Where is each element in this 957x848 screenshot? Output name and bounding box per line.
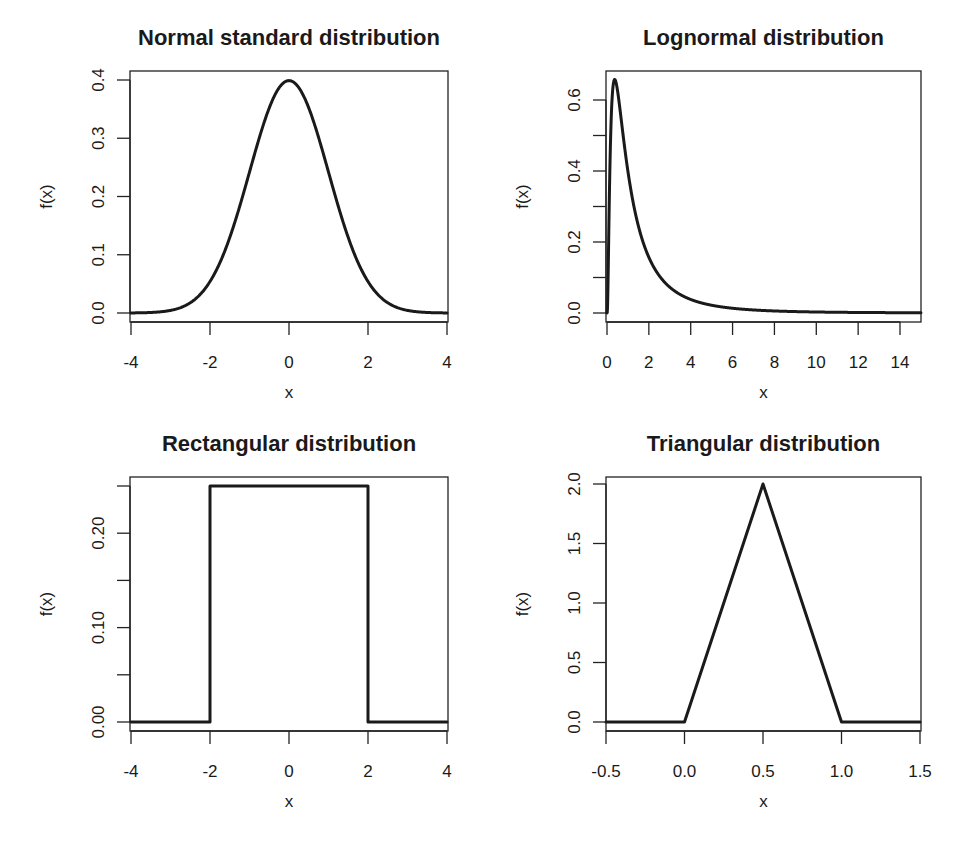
- y-tick-label: 0.0: [565, 710, 584, 734]
- y-tick-label: 0.4: [89, 68, 108, 92]
- y-axis: 0.00.10.20.30.4: [89, 68, 130, 325]
- x-axis: -4-2024: [123, 322, 451, 372]
- panel-title: Lognormal distribution: [643, 25, 884, 50]
- y-tick-label: 1.0: [565, 591, 584, 615]
- y-axis: 0.00.51.01.52.0: [565, 472, 606, 734]
- x-tick-label: 6: [728, 353, 737, 372]
- panel-title: Rectangular distribution: [162, 431, 416, 456]
- x-tick-label: 14: [891, 353, 910, 372]
- y-axis-label: f(x): [513, 184, 532, 209]
- density-curve: [607, 80, 921, 314]
- x-tick-label: -2: [202, 353, 217, 372]
- x-tick-label: -2: [202, 762, 217, 781]
- x-tick-label: 0: [284, 353, 293, 372]
- x-axis-label: x: [759, 383, 768, 402]
- panel-lognormal: Lognormal distribution x f(x) 0246810121…: [513, 25, 921, 402]
- panel-normal: Normal standard distribution x f(x) -4-2…: [37, 25, 451, 402]
- x-tick-label: 1.5: [908, 762, 932, 781]
- x-tick-label: 12: [849, 353, 868, 372]
- x-tick-label: 1.0: [830, 762, 854, 781]
- y-tick-label: 0.00: [89, 705, 108, 738]
- plot-frame: [130, 477, 448, 731]
- x-tick-label: 0.5: [751, 762, 775, 781]
- panel-title: Triangular distribution: [647, 431, 880, 456]
- x-tick-label: 4: [686, 353, 695, 372]
- y-tick-label: 1.5: [565, 532, 584, 556]
- panel-title: Normal standard distribution: [138, 25, 440, 50]
- plot-frame: [606, 71, 921, 322]
- y-tick-label: 0.3: [89, 126, 108, 150]
- density-curve: [606, 484, 920, 722]
- y-axis-label: f(x): [37, 592, 56, 617]
- y-tick-label: 2.0: [565, 472, 584, 496]
- x-tick-label: 2: [363, 353, 372, 372]
- x-tick-label: 2: [363, 762, 372, 781]
- x-tick-label: 4: [442, 353, 451, 372]
- y-tick-label: 0.4: [565, 159, 584, 183]
- y-tick-label: 0.1: [89, 243, 108, 267]
- y-axis-label: f(x): [513, 592, 532, 617]
- x-axis: -4-2024: [123, 731, 451, 781]
- x-tick-label: 0: [602, 353, 611, 372]
- x-tick-label: 4: [442, 762, 451, 781]
- x-tick-label: -4: [123, 762, 138, 781]
- x-tick-label: 2: [644, 353, 653, 372]
- x-axis: -0.50.00.51.01.5: [591, 731, 931, 781]
- density-curve: [131, 486, 447, 722]
- y-tick-label: 0.2: [565, 230, 584, 254]
- plot-frame: [606, 477, 921, 731]
- density-curve: [131, 81, 447, 313]
- figure-2x2-distributions: Normal standard distribution x f(x) -4-2…: [0, 0, 957, 848]
- y-tick-label: 0.10: [89, 611, 108, 644]
- x-tick-label: -0.5: [591, 762, 620, 781]
- panel-triangular: Triangular distribution x f(x) -0.50.00.…: [513, 431, 931, 811]
- y-tick-label: 0.20: [89, 517, 108, 550]
- x-axis: 02468101214: [602, 322, 909, 372]
- y-axis-label: f(x): [37, 184, 56, 209]
- plot-canvas: Normal standard distribution x f(x) -4-2…: [0, 0, 957, 848]
- x-tick-label: 8: [770, 353, 779, 372]
- y-tick-label: 0.2: [89, 185, 108, 209]
- y-axis: 0.00.20.40.6: [565, 88, 606, 325]
- x-axis-label: x: [759, 792, 768, 811]
- x-axis-label: x: [285, 792, 294, 811]
- x-tick-label: 0: [284, 762, 293, 781]
- y-tick-label: 0.0: [565, 301, 584, 325]
- panel-rectangular: Rectangular distribution x f(x) -4-20240…: [37, 431, 451, 811]
- plot-frame: [130, 71, 448, 322]
- y-tick-label: 0.0: [89, 301, 108, 325]
- x-tick-label: -4: [123, 353, 138, 372]
- x-tick-label: 0.0: [673, 762, 697, 781]
- y-tick-label: 0.5: [565, 651, 584, 675]
- y-axis: 0.000.100.20: [89, 486, 130, 739]
- x-axis-label: x: [285, 383, 294, 402]
- y-tick-label: 0.6: [565, 88, 584, 112]
- x-tick-label: 10: [807, 353, 826, 372]
